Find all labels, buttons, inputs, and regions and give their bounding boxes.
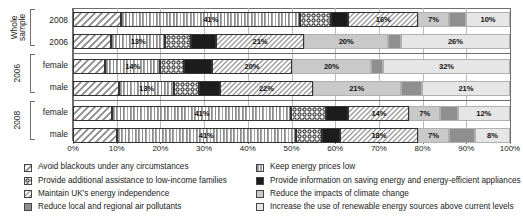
legend-label: Reduce the impacts of climate change xyxy=(270,190,409,198)
legend-column-2: Keep energy prices lowProvide informatio… xyxy=(256,161,523,214)
bar-row-whole-sample-2008: 41%16%7%10% xyxy=(73,12,510,27)
bar-segment-independence: 20% xyxy=(212,59,291,74)
bar-segment-prices: 14% xyxy=(105,59,161,74)
bar-segment-prices: 41% xyxy=(112,106,291,121)
gridline-100 xyxy=(510,8,511,141)
bar-row-2006-female: 14%20%20%32% xyxy=(73,59,510,74)
group-label-whole-sample: Wholesample xyxy=(0,19,44,36)
bar-segment-label: 20% xyxy=(324,63,339,71)
gridline-50 xyxy=(292,8,293,141)
legend-item[interactable]: Reduce local and regional air pollutants xyxy=(24,201,264,214)
bar-segment-information xyxy=(199,81,220,96)
legend: Avoid blackouts under any circumstancesP… xyxy=(24,161,523,215)
bar-segment-renewables: 21% xyxy=(422,81,510,96)
legend-swatch-mid-grey-icon xyxy=(24,203,32,211)
gridline-0 xyxy=(73,8,74,141)
legend-swatch-dotted-checker-icon xyxy=(24,177,32,185)
legend-item[interactable]: Maintain UK's energy independence xyxy=(24,187,264,200)
bar-segment-blackouts xyxy=(73,106,112,121)
gridline-90 xyxy=(466,8,467,141)
stacked-bar-chart: Wholesample 2008 2006 2006 female male 2… xyxy=(0,0,523,217)
legend-label: Reduce local and regional air pollutants xyxy=(38,203,181,211)
gridline-10 xyxy=(117,8,118,141)
bar-segment-low-income xyxy=(291,106,326,121)
group-label-2006-text: 2006 xyxy=(13,64,21,83)
legend-item[interactable]: Avoid blackouts under any circumstances xyxy=(24,161,264,174)
row-label-whole-2006: 2006 xyxy=(49,38,68,46)
gridline-80 xyxy=(423,8,424,141)
bar-segment-climate: 20% xyxy=(292,59,371,74)
group-spine-2006 xyxy=(30,54,31,92)
bar-segment-independence: 16% xyxy=(348,12,418,27)
bar-segment-climate: 20% xyxy=(304,34,388,49)
x-tick-label-100: 100% xyxy=(500,145,520,153)
bar-segment-label: 26% xyxy=(448,38,463,46)
bar-segment-climate: 7% xyxy=(418,12,449,27)
group-label-2006: 2006 xyxy=(8,69,27,77)
group-tick-bottom-1 xyxy=(30,45,35,46)
bar-segment-blackouts xyxy=(73,81,119,96)
y-axis-labels: Wholesample 2008 2006 2006 female male 2… xyxy=(0,8,73,141)
bar-segment-information xyxy=(322,128,339,143)
bar-segment-independence: 21% xyxy=(216,34,304,49)
bar-segment-low-income xyxy=(165,34,190,49)
bar-segment-information xyxy=(326,106,348,121)
bar-segment-information xyxy=(184,59,212,74)
bar-segment-renewables: 32% xyxy=(383,59,510,74)
bar-segment-label: 21% xyxy=(349,85,364,93)
legend-swatch-very-light-grey-icon xyxy=(256,203,264,211)
group-separator-1 xyxy=(73,53,510,54)
group-spine-2008 xyxy=(30,101,31,139)
legend-label: Keep energy prices low xyxy=(270,163,355,171)
group-label-2008-text: 2008 xyxy=(13,111,21,130)
legend-item[interactable]: Reduce the impacts of climate change xyxy=(256,187,523,200)
group-tick-top-1 xyxy=(30,9,35,10)
legend-label: Avoid blackouts under any circumstances xyxy=(38,163,189,171)
legend-item[interactable]: Provide information on saving energy and… xyxy=(256,174,523,187)
bar-row-2008-female: 41%14%7%12% xyxy=(73,106,510,121)
bar-segment-low-income xyxy=(160,59,184,74)
bar-segment-blackouts xyxy=(73,12,121,27)
legend-swatch-light-grey-icon xyxy=(256,190,264,198)
bar-segment-label: 41% xyxy=(203,16,218,24)
row-label-2008-male: male xyxy=(50,130,68,138)
bar-segment-label: 7% xyxy=(428,16,439,24)
bar-segment-pollutants xyxy=(371,59,383,74)
bar-segment-prices: 13% xyxy=(111,34,166,49)
bar-segment-renewables: 12% xyxy=(458,106,510,121)
legend-label: Maintain UK's energy independence xyxy=(38,190,169,198)
bar-segment-renewables: 10% xyxy=(466,12,510,27)
bar-segment-climate: 21% xyxy=(313,81,401,96)
bar-segment-label: 16% xyxy=(376,16,391,24)
x-tick-label-20: 20% xyxy=(152,145,168,153)
bar-segment-label: 41% xyxy=(194,110,209,118)
legend-item[interactable]: Provide additional assistance to low-inc… xyxy=(24,174,264,187)
bar-segment-pollutants xyxy=(449,128,475,143)
bar-segment-pollutants xyxy=(449,12,466,27)
bar-segment-blackouts xyxy=(73,59,105,74)
bar-segment-independence: 14% xyxy=(348,106,409,121)
bar-segment-label: 14% xyxy=(125,63,140,71)
x-tick-label-10: 10% xyxy=(109,145,125,153)
x-tick-label-80: 80% xyxy=(415,145,431,153)
bar-segment-label: 21% xyxy=(253,38,268,46)
bar-segment-independence: 22% xyxy=(220,81,312,96)
gridline-70 xyxy=(379,8,380,141)
group-label-2008: 2008 xyxy=(8,116,27,124)
bar-segment-label: 7% xyxy=(419,110,430,118)
bar-row-2008-male: 41%18%7%8% xyxy=(73,128,510,143)
legend-item[interactable]: Increase the use of renewable energy sou… xyxy=(256,201,523,214)
legend-label: Increase the use of renewable energy sou… xyxy=(270,203,514,211)
bar-segment-blackouts xyxy=(73,34,111,49)
legend-item[interactable]: Keep energy prices low xyxy=(256,161,523,174)
x-tick-label-0: 0% xyxy=(67,145,79,153)
bar-segment-label: 20% xyxy=(245,63,260,71)
plot-area: 41%16%7%10%13%21%20%26%14%20%20%32%13%22… xyxy=(73,8,510,141)
legend-label: Provide information on saving energy and… xyxy=(270,177,521,185)
legend-swatch-solid-black-icon xyxy=(256,177,264,185)
bar-segment-low-income xyxy=(300,12,331,27)
legend-column-1: Avoid blackouts under any circumstancesP… xyxy=(24,161,264,214)
gridline-20 xyxy=(160,8,161,141)
bar-segment-label: 13% xyxy=(131,38,146,46)
bar-segment-independence: 18% xyxy=(340,128,419,143)
